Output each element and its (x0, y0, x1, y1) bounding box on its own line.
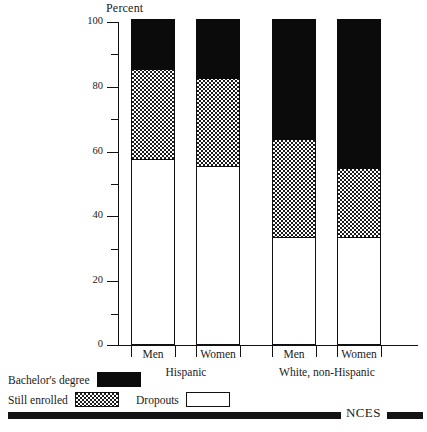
group-label-white-non-hispanic: White, non-Hispanic (247, 366, 407, 378)
y-tick-minor-90 (111, 54, 118, 55)
bar-white-women (337, 21, 381, 345)
legend-label-still-enrolled: Still enrolled (8, 394, 68, 406)
y-tick-label-100: 100 (77, 15, 103, 26)
y-tick-100 (107, 22, 118, 23)
y-tick-60 (107, 152, 118, 153)
legend-item-dropouts: Dropouts (136, 392, 230, 407)
bar-segment-bachelors (337, 19, 381, 169)
bar-segment-bachelors (272, 19, 316, 140)
x-label-white-women: Women (314, 348, 404, 360)
legend-swatch-dropouts (186, 392, 230, 407)
bar-segment-still-enrolled (196, 77, 240, 167)
y-tick-minor-70 (111, 119, 118, 120)
y-tick-label-40: 40 (77, 209, 103, 220)
bar-segment-still-enrolled (272, 139, 316, 238)
y-tick-20 (107, 281, 118, 282)
y-tick-label-60: 60 (77, 145, 103, 156)
bar-hispanic-men (131, 21, 175, 345)
bar-hispanic-women (196, 21, 240, 345)
legend-swatch-still-enrolled (75, 392, 119, 407)
bar-segment-dropouts (196, 166, 240, 345)
y-tick-minor-30 (111, 249, 118, 250)
y-axis-line (118, 22, 119, 346)
bar-segment-still-enrolled (337, 168, 381, 238)
footer-rule-right (387, 412, 423, 419)
chart-figure: Percent 100 80 60 40 20 0 (0, 0, 427, 432)
x-axis-line (118, 345, 418, 346)
y-tick-minor-10 (111, 314, 118, 315)
legend-label-dropouts: Dropouts (136, 394, 179, 406)
nces-mark: NCES (344, 405, 383, 421)
bar-segment-dropouts (337, 237, 381, 345)
bar-segment-still-enrolled (131, 68, 175, 161)
y-tick-minor-50 (111, 184, 118, 185)
footer-rule-left (8, 412, 341, 419)
y-tick-label-0: 0 (77, 338, 103, 349)
bar-segment-bachelors (196, 19, 240, 79)
legend-item-still-enrolled: Still enrolled (8, 392, 119, 407)
legend-label-bachelors-degree: Bachelor's degree (8, 374, 90, 386)
bar-white-men (272, 21, 316, 345)
plot-area: 100 80 60 40 20 0 (118, 22, 418, 346)
y-tick-80 (107, 87, 118, 88)
y-tick-0 (107, 345, 118, 346)
bar-segment-dropouts (272, 237, 316, 345)
y-tick-label-80: 80 (77, 80, 103, 91)
y-tick-40 (107, 216, 118, 217)
legend-swatch-bachelors-degree (97, 372, 141, 387)
legend-item-bachelors-degree: Bachelor's degree (8, 372, 141, 387)
y-tick-label-20: 20 (77, 274, 103, 285)
bar-segment-bachelors (131, 19, 175, 70)
bar-segment-dropouts (131, 159, 175, 345)
y-axis-title: Percent (106, 1, 143, 16)
